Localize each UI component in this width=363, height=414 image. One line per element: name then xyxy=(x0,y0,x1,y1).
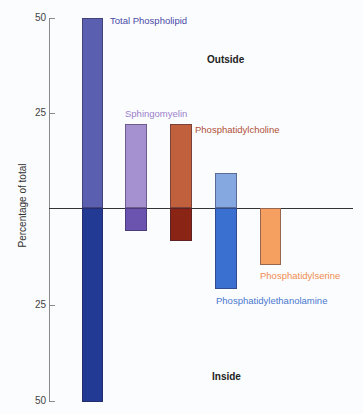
y-tick xyxy=(49,305,55,306)
y-axis-line xyxy=(49,18,50,402)
y-tick-label: 25 xyxy=(20,299,46,310)
y-tick-label: 50 xyxy=(20,395,46,406)
bar-total-inside xyxy=(82,208,103,402)
bar-pe-inside xyxy=(215,208,237,289)
label-pc: Phosphatidylcholine xyxy=(195,124,280,135)
y-tick-label: 50 xyxy=(20,12,46,23)
bar-sm-outside xyxy=(125,124,147,208)
bar-sm-inside xyxy=(125,208,147,231)
bar-total-outside xyxy=(82,18,103,208)
y-tick-label: 25 xyxy=(20,107,46,118)
label-ps: Phosphatidylserine xyxy=(260,270,340,281)
label-total: Total Phospholipid xyxy=(110,15,187,26)
label-sm: Sphingomyelin xyxy=(125,108,187,119)
bar-pc-inside xyxy=(170,208,192,241)
bar-pc-outside xyxy=(170,124,192,208)
bar-ps-inside xyxy=(260,208,281,265)
y-tick xyxy=(49,113,55,114)
region-inside-label: Inside xyxy=(212,371,241,382)
label-pe: Phosphatidylethanolamine xyxy=(216,295,327,306)
y-tick xyxy=(49,18,55,19)
bar-pe-outside xyxy=(215,173,237,208)
region-outside-label: Outside xyxy=(207,54,244,65)
y-tick xyxy=(49,401,55,402)
y-axis-label: Percentage of total xyxy=(17,156,28,256)
